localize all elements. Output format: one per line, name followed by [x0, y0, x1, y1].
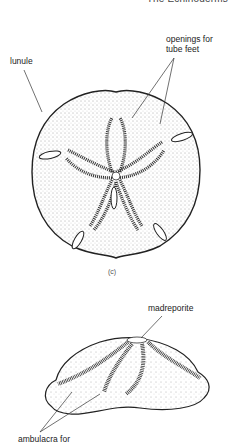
- label-ambulacra-for: ambulacra for: [18, 434, 70, 444]
- label-openings-for-tube-feet-line1: openings for: [166, 34, 213, 44]
- figure-caption-c: (c): [108, 268, 116, 275]
- sand-dollar-illustration: [0, 0, 232, 447]
- label-lunule: lunule: [10, 56, 33, 66]
- label-madreporite: madreporite: [148, 303, 193, 313]
- label-openings-for-tube-feet-line2: tube feet: [166, 44, 199, 54]
